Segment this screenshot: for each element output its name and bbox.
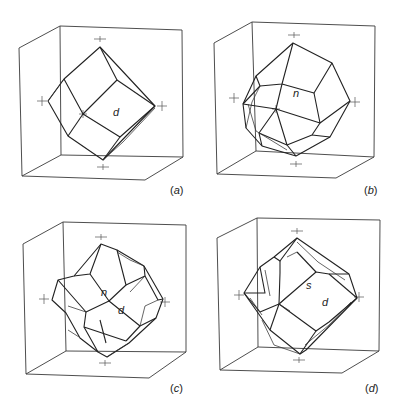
crystal-rhombic-dodecahedron bbox=[48, 47, 155, 160]
face-label-d: d bbox=[322, 296, 329, 308]
panel-label-c: (c) bbox=[170, 382, 183, 394]
crystal-figure: d (a) bbox=[0, 0, 398, 415]
axis-markers bbox=[37, 36, 167, 170]
panel-label-a: (a) bbox=[170, 184, 183, 196]
crystal-trapezohedron bbox=[243, 43, 350, 156]
panel-c: n d (c) bbox=[23, 222, 186, 394]
panel-label-b: (b) bbox=[364, 184, 377, 196]
face-label-d: d bbox=[113, 106, 120, 118]
axis-markers bbox=[229, 32, 360, 167]
crystal-dodecahedron-trapezohedron bbox=[52, 244, 163, 357]
face-label-d: d bbox=[118, 304, 125, 316]
axis-markers bbox=[39, 234, 170, 366]
crystal-dodecahedron-hexoctahedron bbox=[244, 238, 357, 354]
panel-d: s d (d) bbox=[217, 218, 380, 394]
face-label-s: s bbox=[306, 279, 312, 291]
panel-label-d: (d) bbox=[365, 382, 378, 394]
face-label-n: n bbox=[101, 286, 107, 298]
panel-a: d (a) bbox=[19, 26, 183, 196]
axis-markers bbox=[234, 228, 364, 363]
panel-b: n (b) bbox=[214, 22, 377, 196]
reference-box bbox=[217, 218, 380, 373]
face-label-n: n bbox=[293, 87, 299, 99]
